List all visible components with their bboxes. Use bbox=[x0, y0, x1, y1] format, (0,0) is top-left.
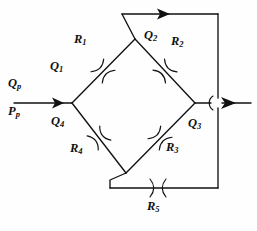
edge-r2 bbox=[135, 39, 195, 103]
label-inlet-pressure: Pp bbox=[8, 105, 20, 119]
label-r1: R1 bbox=[74, 33, 87, 47]
bypass-loop bbox=[110, 14, 218, 188]
outlet-branch bbox=[195, 96, 251, 110]
label-r2: R2 bbox=[171, 35, 184, 49]
loop-to-bottom-node bbox=[110, 173, 126, 188]
label-q1: Q1 bbox=[50, 60, 63, 74]
diagram-svg bbox=[0, 0, 257, 231]
label-inlet-flow: Qp bbox=[8, 77, 21, 91]
edge-r3 bbox=[126, 103, 195, 173]
label-r5: R5 bbox=[147, 200, 160, 214]
figure-canvas: Qp Pp Q1 Q2 Q3 Q4 R1 R2 R3 R4 R5 bbox=[0, 0, 257, 231]
label-q4: Q4 bbox=[51, 115, 64, 129]
inlet-branch bbox=[14, 98, 72, 109]
label-r4: R4 bbox=[70, 142, 83, 156]
edge-r1 bbox=[72, 39, 135, 103]
label-q2: Q2 bbox=[144, 29, 157, 43]
label-r3: R3 bbox=[166, 141, 179, 155]
edge-r4 bbox=[72, 103, 126, 173]
label-q3: Q3 bbox=[188, 117, 201, 131]
top-node-to-loop-left-stub bbox=[122, 14, 135, 39]
